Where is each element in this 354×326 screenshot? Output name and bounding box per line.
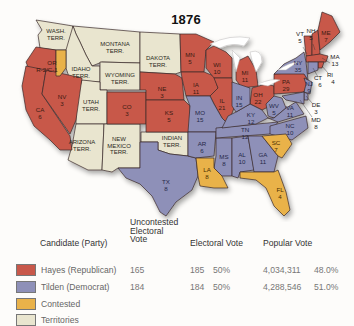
svg-text:MA13: MA13 — [330, 53, 340, 67]
svg-text:TN12: TN12 — [241, 126, 249, 140]
tilden-electoral-pct: 50% — [213, 282, 230, 292]
territory-dakota — [140, 32, 181, 74]
hayes-popular: 4,034,311 — [263, 265, 301, 275]
tilden-popular: 4,288,546 — [263, 282, 301, 292]
svg-text:WASH.TERR.: WASH.TERR. — [46, 28, 66, 41]
svg-text:INDIANTERR.: INDIANTERR. — [162, 135, 182, 148]
hayes-electoral: 185 — [190, 265, 204, 275]
header-candidate: Candidate (Party) — [40, 239, 107, 248]
swatch-contested — [16, 298, 36, 310]
header-electoral-vote: Electoral Vote — [190, 239, 243, 248]
header-popular-vote: Popular Vote — [263, 239, 312, 248]
tilden-popular-pct: 51.0% — [314, 282, 338, 292]
svg-text:CT6: CT6 — [314, 74, 322, 88]
hayes-electoral-pct: 50% — [213, 265, 230, 275]
state-maryland — [282, 92, 304, 104]
svg-text:KY12: KY12 — [247, 111, 255, 125]
svg-text:AL10: AL10 — [238, 151, 246, 165]
swatch-democrat — [16, 281, 36, 293]
svg-text:DAKOTATERR.: DAKOTATERR. — [146, 55, 170, 68]
svg-text:OH22: OH22 — [253, 91, 262, 105]
svg-text:RI4: RI4 — [327, 71, 335, 85]
state-massachusetts — [306, 54, 328, 62]
svg-text:NJ9: NJ9 — [305, 80, 313, 94]
svg-text:DE3: DE3 — [312, 101, 321, 115]
swatch-republican — [16, 264, 36, 276]
svg-text:VT5: VT5 — [296, 30, 304, 44]
hayes-uncontested: 165 — [130, 265, 144, 275]
header-uncontested: Uncontested Electoral Vote — [130, 218, 178, 244]
svg-text:IN15: IN15 — [236, 94, 243, 108]
tilden-uncontested: 184 — [130, 282, 144, 292]
svg-text:WI10: WI10 — [213, 61, 221, 75]
state-pennsylvania — [274, 72, 308, 94]
svg-text:IA11: IA11 — [193, 81, 200, 95]
svg-text:MD8: MD8 — [311, 116, 321, 130]
tilden-electoral: 184 — [190, 282, 204, 292]
svg-text:UTAHTERR.: UTAHTERR. — [82, 99, 100, 112]
svg-text:IDAHOTERR.: IDAHOTERR. — [71, 66, 90, 79]
hayes-popular-pct: 48.0% — [314, 265, 338, 275]
svg-text:NY35: NY35 — [294, 59, 303, 73]
state-florida — [240, 170, 290, 216]
legend: Candidate (Party) Uncontested Electoral … — [0, 222, 354, 326]
swatch-territories — [16, 314, 36, 326]
us-election-map-1876: WASH.TERR. MONTANATERR. IDAHOTERR. WYOMI… — [0, 0, 354, 222]
svg-text:MI11: MI11 — [242, 69, 249, 83]
